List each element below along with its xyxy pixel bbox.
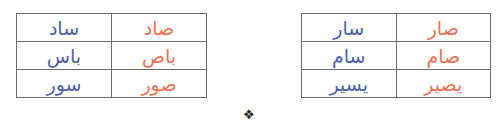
table-row: سور صور bbox=[17, 70, 207, 98]
sin-word-cell: سام bbox=[302, 42, 397, 70]
word-pair-table-left: ساد صاد باس باص سور صور bbox=[16, 13, 207, 98]
sin-word-cell: سور bbox=[17, 70, 112, 98]
word-pair-table-right: سار صار سام صام يسير يصير bbox=[301, 13, 491, 98]
sad-word-cell: صاد bbox=[112, 14, 207, 42]
sad-word-cell: صام bbox=[396, 42, 491, 70]
table-row: يسير يصير bbox=[302, 70, 491, 98]
sad-word-cell: صور bbox=[112, 70, 207, 98]
table-row: ساد صاد bbox=[17, 14, 207, 42]
sin-word-cell: سار bbox=[302, 14, 397, 42]
sad-word-cell: يصير bbox=[396, 70, 491, 98]
sin-word-cell: ساد bbox=[17, 14, 112, 42]
sin-word-cell: يسير bbox=[302, 70, 397, 98]
table-row: سام صام bbox=[302, 42, 491, 70]
sad-word-cell: باص bbox=[112, 42, 207, 70]
four-diamond-separator-icon: ❖ bbox=[243, 108, 255, 121]
sad-word-cell: صار bbox=[396, 14, 491, 42]
table-row: باس باص bbox=[17, 42, 207, 70]
table-row: سار صار bbox=[302, 14, 491, 42]
sin-word-cell: باس bbox=[17, 42, 112, 70]
